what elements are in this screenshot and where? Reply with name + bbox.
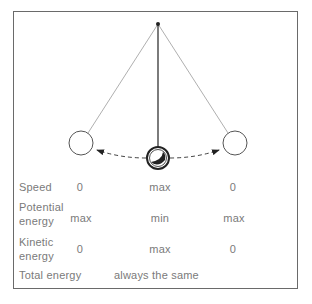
potential-center: min <box>151 212 169 224</box>
pendulum-strings <box>88 24 228 147</box>
row-label-potential-2: energy <box>19 215 54 227</box>
arrow-right <box>170 150 219 158</box>
row-label-potential-1: Potential <box>19 201 64 213</box>
row-label-speed: Speed <box>19 181 52 193</box>
left-bob <box>69 131 93 155</box>
row-label-total-energy: Total energy <box>19 269 81 281</box>
total-energy-value: always the same <box>114 269 199 281</box>
speed-center: max <box>149 181 170 193</box>
right-bob <box>223 131 247 155</box>
pivot-point <box>156 22 160 26</box>
row-label-kinetic-1: Kinetic <box>19 236 53 248</box>
arrow-left <box>97 150 146 158</box>
potential-right: max <box>223 212 244 224</box>
speed-left: 0 <box>77 181 83 193</box>
kinetic-left: 0 <box>77 243 83 255</box>
row-label-kinetic-2: energy <box>19 250 54 262</box>
kinetic-center: max <box>149 243 170 255</box>
center-bob <box>147 147 169 169</box>
kinetic-right: 0 <box>230 243 236 255</box>
speed-right: 0 <box>230 181 236 193</box>
potential-left: max <box>70 212 91 224</box>
